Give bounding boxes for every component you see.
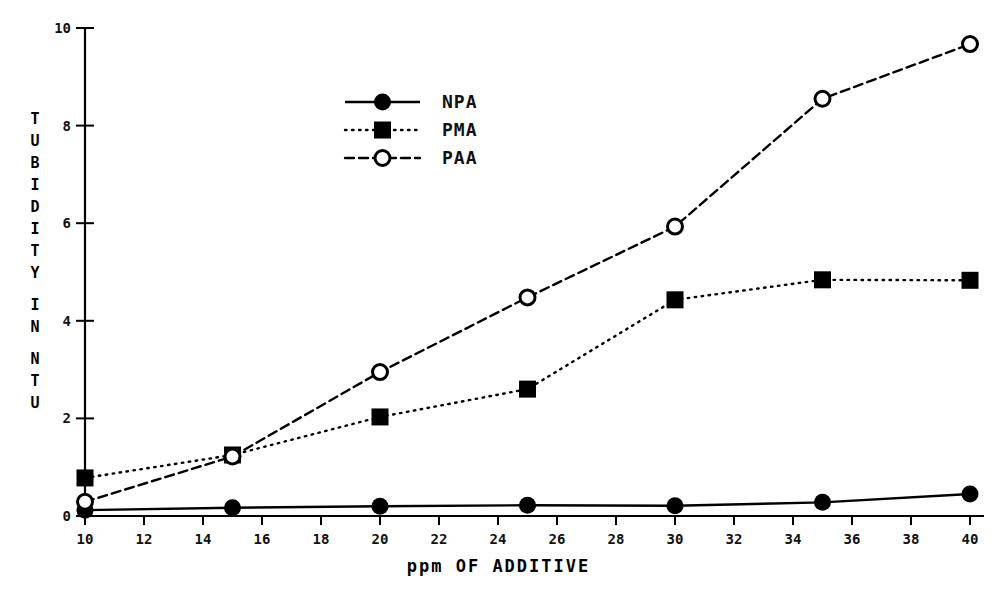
y-axis-tick-label: 10 [54,20,71,36]
legend-item-paa: PAA [345,147,478,168]
y-axis-title-char: T [22,240,48,262]
y-axis-tick-label: 0 [63,508,71,524]
x-axis-tick-label: 22 [431,531,448,547]
y-axis-title-char: I [22,218,48,240]
legend-item-npa: NPA [345,91,478,112]
data-point-marker [814,271,831,288]
data-point-marker [667,291,684,308]
x-axis-tick-label: 10 [77,531,94,547]
series-paa [78,37,978,510]
plot-area: 101214161820222426283032343638400246810 … [0,0,997,591]
y-axis-tick-label: 8 [63,118,71,134]
x-axis-tick-label: 24 [490,531,507,547]
y-axis-title-char: I [22,174,48,196]
y-axis-tick-label: 4 [63,313,71,329]
x-axis-tick-label: 12 [136,531,153,547]
data-point-marker [78,494,93,509]
y-axis-title-char: N [22,348,48,370]
series-npa [77,486,979,519]
x-axis-tick-label: 34 [785,531,802,547]
data-point-marker [519,381,536,398]
y-axis-title-char: B [22,152,48,174]
legend-label: NPA [442,91,478,112]
x-axis-tick-label: 36 [844,531,861,547]
x-axis-tick-label: 38 [903,531,920,547]
data-point-marker [224,499,241,516]
y-axis-title-char: I [22,294,48,316]
series-line [85,44,970,502]
legend-label: PAA [442,147,478,168]
y-axis-title-line-3: NTU [22,348,48,414]
x-axis-tick-label: 14 [195,531,212,547]
y-axis-title-char: U [22,392,48,414]
y-axis-title-char: U [22,130,48,152]
data-point-marker [375,151,390,166]
data-point-marker [668,219,683,234]
x-axis-tick-label: 16 [254,531,271,547]
x-axis-tick-label: 32 [726,531,743,547]
chart-figure: TUBIDITY IN NTU ppm OF ADDITIVE 10121416… [0,0,997,591]
y-axis-title-char: D [22,196,48,218]
data-point-marker [962,272,979,289]
x-axis-tick-label: 30 [667,531,684,547]
data-point-marker [519,497,536,514]
data-point-marker [77,469,94,486]
x-axis-tick-label: 20 [372,531,389,547]
data-point-marker [520,290,535,305]
data-point-marker [374,94,391,111]
x-axis-tick-label: 26 [549,531,566,547]
x-axis-title: ppm OF ADDITIVE [0,556,997,576]
x-axis-tick-label: 28 [608,531,625,547]
y-axis-title: TUBIDITY IN NTU [22,108,48,414]
x-axis-tick-label: 18 [313,531,330,547]
data-point-marker [225,449,240,464]
data-point-marker [814,494,831,511]
y-axis-title-line-2: IN [22,294,48,338]
data-point-marker [962,486,979,503]
y-axis-title-char: N [22,316,48,338]
y-axis-tick-label: 6 [63,215,71,231]
y-axis-title-char: Y [22,262,48,284]
data-series [77,37,979,519]
series-line [85,280,970,478]
y-axis-title-char: T [22,108,48,130]
data-point-marker [374,122,391,139]
data-point-marker [667,497,684,514]
data-point-marker [815,91,830,106]
data-point-marker [372,498,389,515]
legend-label: PMA [442,119,478,140]
data-point-marker [372,408,389,425]
y-axis-tick-label: 2 [63,410,71,426]
chart-legend: NPAPMAPAA [345,91,478,168]
x-axis-tick-label: 40 [962,531,979,547]
y-axis-title-line-1: TUBIDITY [22,108,48,284]
data-point-marker [373,365,388,380]
data-point-marker [963,37,978,52]
legend-item-pma: PMA [345,119,478,140]
y-axis-title-char: T [22,370,48,392]
